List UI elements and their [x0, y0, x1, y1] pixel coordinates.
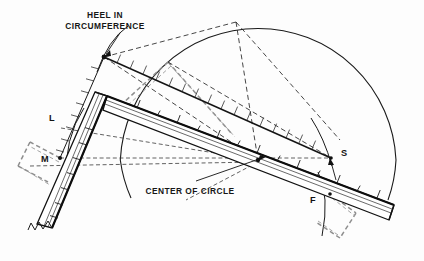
geometry-diagram: HEEL IN CIRCUMFERENCE CENTER OF CIRCLE L…: [0, 0, 424, 261]
leader-heel: [106, 33, 120, 54]
caption-heel-line1: HEEL IN: [87, 10, 123, 20]
label-point-m: M: [41, 154, 49, 164]
leader-center: [196, 158, 262, 181]
label-point-l: L: [49, 113, 55, 123]
ghost-square-left: [18, 142, 60, 182]
marker-point-f: [328, 192, 332, 196]
upper-rule-ticks: [117, 55, 316, 149]
circle-arc-group: [120, 28, 396, 200]
framing-square: [28, 92, 394, 230]
arc-through-s: [311, 118, 332, 166]
circle-arc-right-lower: [388, 160, 396, 200]
label-point-f: F: [310, 195, 316, 205]
ghost-square-positions: [18, 62, 356, 238]
label-point-s: S: [341, 148, 347, 158]
figure-root: HEEL IN CIRCUMFERENCE CENTER OF CIRCLE L…: [0, 0, 424, 261]
marker-point-m: [58, 156, 62, 160]
caption-center-of-circle: CENTER OF CIRCLE: [145, 186, 234, 196]
main-circle-arc: [120, 28, 396, 160]
caption-heel-line2: CIRCUMFERENCE: [65, 21, 144, 31]
circle-arc-left-lower: [120, 160, 131, 198]
